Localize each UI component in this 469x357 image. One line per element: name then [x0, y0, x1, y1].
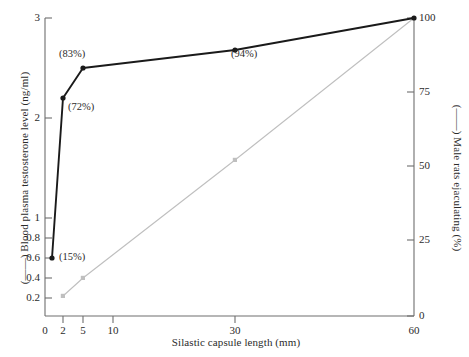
right-axis-ticks [407, 18, 414, 316]
bottom-axis-ticks [63, 316, 235, 323]
right-tick-label-0: 0 [419, 309, 453, 321]
right-tick-label-50: 50 [419, 159, 453, 171]
bottom-tick-label-5: 5 [71, 324, 95, 336]
x-axis-title: Silastic capsule length (mm) [60, 336, 412, 348]
annotation-15-percent: (15%) [59, 251, 85, 262]
right-tick-label-100: 100 [419, 11, 453, 23]
bottom-tick-label-30: 30 [223, 324, 247, 336]
left-axis-title: (——) Blood plasma testosterone level (ng… [18, 48, 30, 308]
bottom-tick-label-10: 10 [101, 324, 125, 336]
right-tick-label-25: 25 [419, 233, 453, 245]
annotation-94-percent: (94%) [231, 48, 257, 59]
right-axis-title: (——) Male rats ejaculating (%) [452, 48, 464, 308]
left-tick-label-3: 3 [14, 11, 40, 23]
bottom-tick-label-60: 60 [402, 324, 426, 336]
series-male-rats-ejaculating-line [63, 18, 414, 296]
right-tick-label-75: 75 [419, 85, 453, 97]
annotation-72-percent: (72%) [68, 101, 94, 112]
chart-figure: 3 2 1 0.8 0.6 0.4 0.2 100 75 50 25 0 0 2… [0, 0, 469, 357]
annotation-83-percent: (83%) [59, 48, 85, 59]
